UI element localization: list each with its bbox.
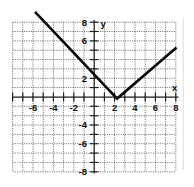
y-tick-label: 8 (82, 17, 87, 28)
x-tick-labels: -6 -4 -2 2 4 6 8 (29, 102, 179, 113)
x-tick-label: -4 (49, 102, 58, 113)
y-tick-label: -6 (79, 138, 87, 149)
y-tick-label: 2 (82, 73, 87, 84)
x-axis-label: x (172, 82, 178, 93)
graph-figure: -6 -4 -2 2 4 6 8 8 6 2 -4 -6 -8 y x (0, 0, 194, 187)
coordinate-plane: -6 -4 -2 2 4 6 8 8 6 2 -4 -6 -8 y x (0, 0, 194, 187)
y-tick-label: -4 (79, 119, 88, 130)
scan-edge-artifact (183, 18, 185, 170)
x-tick-label: -2 (70, 102, 78, 113)
y-tick-label: -8 (79, 166, 87, 177)
x-tick-label: 6 (153, 102, 158, 113)
x-tick-label: -6 (29, 102, 37, 113)
x-tick-label: 4 (132, 102, 138, 113)
x-tick-label: 2 (112, 102, 117, 113)
y-axis-label: y (101, 18, 107, 29)
y-tick-label: 6 (82, 35, 87, 46)
x-tick-label: 8 (173, 102, 178, 113)
